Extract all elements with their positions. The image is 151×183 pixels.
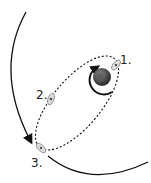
- moon-orbit-arc-lower: [48, 156, 148, 175]
- spacecraft-icon-3: [35, 142, 48, 155]
- label-3: 3.: [31, 157, 42, 169]
- moon-orbit-arc: [11, 12, 30, 140]
- orbit-diagram: [0, 0, 151, 183]
- label-2: 2.: [36, 89, 47, 101]
- spacecraft-icon-2: [46, 92, 56, 105]
- label-1: 1.: [120, 54, 131, 66]
